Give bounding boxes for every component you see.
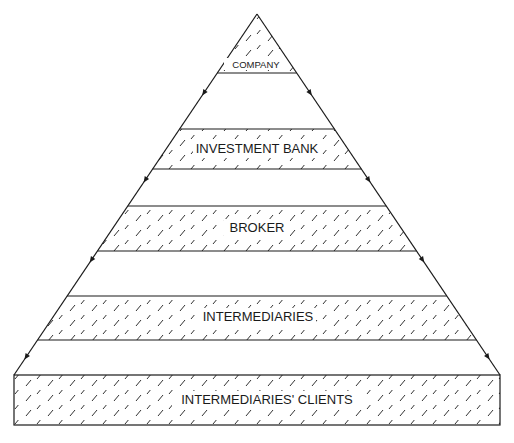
label-investment-bank: INVESTMENT BANK	[196, 141, 319, 156]
right-flow-arrow-icon	[484, 353, 490, 359]
left-flow-arrow-icon	[90, 256, 96, 262]
right-flow-arrow-icon	[365, 176, 371, 182]
label-broker: BROKER	[230, 220, 285, 235]
label-intermediaries-clients: INTERMEDIARIES' CLIENTS	[181, 392, 353, 407]
left-flow-arrow-icon	[24, 353, 30, 359]
label-intermediaries: INTERMEDIARIES	[203, 309, 314, 324]
right-flow-arrow-icon	[419, 256, 425, 262]
right-flow-arrow-icon	[306, 89, 312, 95]
pyramid-diagram: COMPANY INVESTMENT BANK BROKER INTERMEDI…	[0, 0, 514, 443]
left-flow-arrow-icon	[202, 89, 208, 95]
label-company: COMPANY	[232, 59, 280, 70]
left-flow-arrow-icon	[144, 176, 150, 182]
